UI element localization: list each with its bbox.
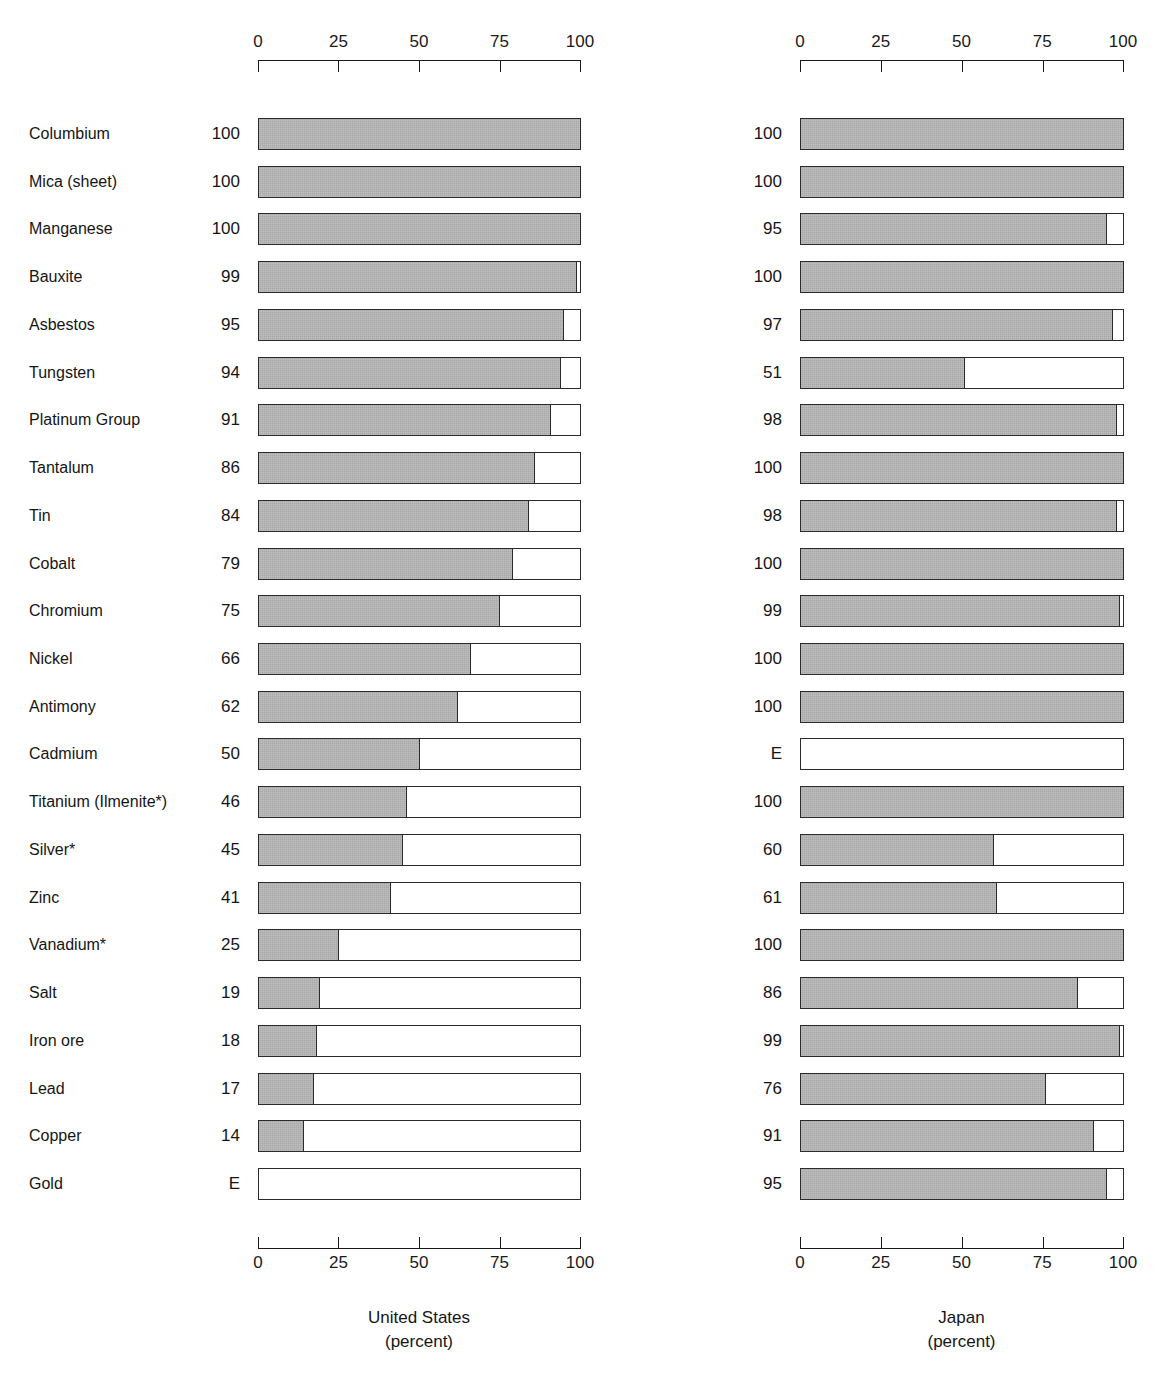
value-label: 100: [690, 124, 782, 144]
bar-fill: [801, 930, 1123, 960]
axis-tick-label: 100: [1109, 32, 1137, 52]
bar-track: [800, 786, 1124, 818]
axis-tick: [580, 60, 581, 72]
bar-track: [258, 404, 581, 436]
bar-fill: [259, 644, 471, 674]
bar-track: [800, 261, 1124, 293]
bar-fill: [801, 644, 1123, 674]
bar-track: [800, 548, 1124, 580]
bar-fill: [801, 1026, 1120, 1056]
bar-track: [258, 1120, 581, 1152]
bar-track: [258, 452, 581, 484]
category-label: Zinc: [29, 888, 59, 908]
bar-track: [258, 357, 581, 389]
bar-fill: [801, 835, 994, 865]
bar-fill: [259, 1121, 304, 1151]
value-label: 95: [690, 1174, 782, 1194]
category-label: Asbestos: [29, 315, 95, 335]
bar-track: [800, 643, 1124, 675]
value-label: 51: [690, 363, 782, 383]
bar-track: [800, 404, 1124, 436]
value-label: 17: [150, 1079, 240, 1099]
value-label: 14: [150, 1126, 240, 1146]
axis-tick-label: 25: [329, 32, 348, 52]
bar-fill: [801, 978, 1078, 1008]
bar-fill: [259, 978, 320, 1008]
axis-tick: [962, 60, 963, 72]
bar-fill: [801, 262, 1123, 292]
axis-tick-label: 75: [1033, 32, 1052, 52]
value-label: 100: [690, 935, 782, 955]
axis-tick: [962, 1237, 963, 1249]
us-axis-labels-top: 0255075100: [258, 32, 580, 52]
axis-tick: [580, 1237, 581, 1249]
axis-tick: [1123, 60, 1124, 72]
panel-united-states: 0255075100 Columbium100Mica (sheet)100Ma…: [0, 0, 640, 1395]
us-axis-bottom: [258, 1227, 581, 1249]
bar-track: [258, 834, 581, 866]
bar-track: [800, 500, 1124, 532]
bar-track: [800, 1120, 1124, 1152]
value-label: 66: [150, 649, 240, 669]
bar-track: [258, 929, 581, 961]
bar-track: [800, 1073, 1124, 1105]
value-label: 100: [690, 697, 782, 717]
category-label: Platinum Group: [29, 410, 140, 430]
bar-fill: [259, 739, 420, 769]
axis-tick-label: 50: [952, 1253, 971, 1273]
axis-tick: [419, 60, 420, 72]
value-label: 100: [690, 172, 782, 192]
bar-track: [258, 691, 581, 723]
category-label: Copper: [29, 1126, 81, 1146]
category-label: Cadmium: [29, 744, 97, 764]
us-caption-title: United States: [258, 1306, 580, 1330]
axis-tick-label: 100: [566, 32, 594, 52]
bar-fill: [259, 358, 561, 388]
axis-tick: [338, 60, 339, 72]
bar-fill: [801, 358, 965, 388]
category-label: Silver*: [29, 840, 75, 860]
japan-axis-bottom: [800, 1227, 1124, 1249]
category-label: Antimony: [29, 697, 96, 717]
category-label: Salt: [29, 983, 57, 1003]
bar-track: [800, 357, 1124, 389]
axis-tick-label: 75: [490, 1253, 509, 1273]
bar-fill: [259, 596, 500, 626]
axis-tick: [258, 60, 259, 72]
us-axis-labels-bottom: 0255075100: [258, 1253, 580, 1273]
bar-track: [258, 261, 581, 293]
axis-tick-label: 25: [871, 1253, 890, 1273]
bar-fill: [801, 692, 1123, 722]
bar-track: [800, 595, 1124, 627]
axis-tick: [258, 1237, 259, 1249]
value-label: 25: [150, 935, 240, 955]
bar-track: [258, 595, 581, 627]
bar-fill: [259, 883, 391, 913]
value-label: E: [150, 1174, 240, 1194]
us-caption-subtitle: (percent): [258, 1330, 580, 1354]
bar-fill: [801, 1074, 1046, 1104]
value-label: 100: [690, 554, 782, 574]
bar-fill: [259, 119, 580, 149]
value-label: 98: [690, 410, 782, 430]
axis-tick: [1043, 60, 1044, 72]
category-label: Manganese: [29, 219, 113, 239]
bar-fill: [259, 692, 458, 722]
axis-tick: [800, 1237, 801, 1249]
axis-tick-label: 0: [253, 32, 262, 52]
bar-track: [258, 1025, 581, 1057]
bar-track: [258, 882, 581, 914]
bar-fill: [801, 1121, 1094, 1151]
axis-tick-label: 75: [490, 32, 509, 52]
axis-tick-label: 50: [410, 1253, 429, 1273]
category-label: Vanadium*: [29, 935, 106, 955]
bar-track: [258, 643, 581, 675]
bar-fill: [801, 119, 1123, 149]
value-label: 50: [150, 744, 240, 764]
value-label: 62: [150, 697, 240, 717]
axis-tick-label: 0: [253, 1253, 262, 1273]
japan-caption: Japan (percent): [800, 1306, 1123, 1354]
axis-tick: [800, 60, 801, 72]
bar-fill: [801, 501, 1117, 531]
bar-fill: [801, 453, 1123, 483]
